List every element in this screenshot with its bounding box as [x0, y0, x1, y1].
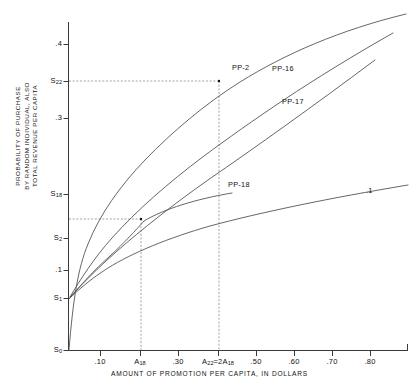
curve-label-pp-2: PP-2: [232, 63, 249, 72]
curve-label-pp-16: PP-16: [272, 64, 294, 73]
x-axis-title: AMOUNT OF PROMOTION PER CAPITA, IN DOLLA…: [0, 370, 419, 377]
y-tick-label: S18: [28, 189, 62, 198]
curve-pp-18: [70, 193, 232, 298]
curve-lower-curve: [69, 185, 408, 299]
y-tick-label: S1: [28, 293, 62, 302]
y-tick-marks-group: [64, 45, 69, 351]
y-tick-label: S22: [28, 76, 62, 85]
y-tick-label: S0: [28, 345, 62, 354]
x-tick-label: .80: [335, 357, 405, 366]
chart-plot-area: [0, 0, 419, 386]
curve-label-pp-17: PP-17: [282, 97, 304, 106]
y-tick-label: .1: [28, 265, 62, 274]
curve-pp-16: [70, 33, 393, 297]
point-s22-a22: [218, 80, 220, 82]
x-tick-marks-group: [101, 351, 371, 357]
curve-pp-17: [70, 60, 375, 297]
y-tick-label: S2: [28, 233, 62, 242]
curve-label-lower-curve: .1: [366, 186, 373, 195]
intersection-markers-group: [140, 80, 220, 220]
y-axis-title-line-1: PROBABILITY OF PURCHASE: [14, 61, 23, 211]
chart-figure: PROBABILITY OF PURCHASE BY RANDOM INDIVI…: [0, 0, 419, 386]
y-tick-label: .3: [28, 113, 62, 122]
y-tick-label: .4: [28, 39, 62, 48]
point-s-lower-a18: [140, 218, 142, 220]
guide-lines-group: [69, 81, 219, 350]
curve-label-pp-18: PP-18: [228, 180, 250, 189]
